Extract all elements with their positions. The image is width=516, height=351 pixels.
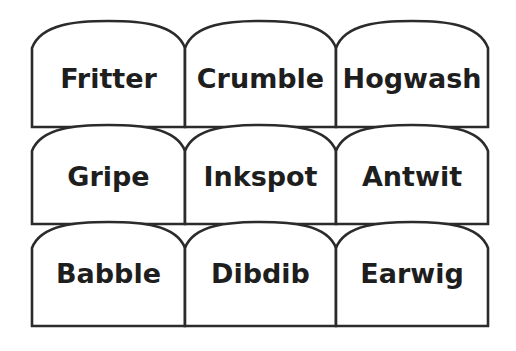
arch-card-label: Babble bbox=[56, 258, 161, 289]
arch-card-grid: FritterCrumbleHogwashGripeInkspotAntwitB… bbox=[0, 0, 516, 351]
arch-card-label: Crumble bbox=[197, 63, 324, 94]
arch-card-label: Hogwash bbox=[343, 63, 482, 94]
arch-card-label: Earwig bbox=[360, 258, 464, 289]
arch-card-label: Inkspot bbox=[203, 161, 317, 192]
arch-card-label: Dibdib bbox=[211, 258, 310, 289]
arch-card-label: Fritter bbox=[60, 63, 157, 94]
figure-canvas: FritterCrumbleHogwashGripeInkspotAntwitB… bbox=[0, 0, 516, 351]
arch-card-label: Gripe bbox=[67, 161, 149, 192]
arch-card-label: Antwit bbox=[362, 161, 462, 192]
